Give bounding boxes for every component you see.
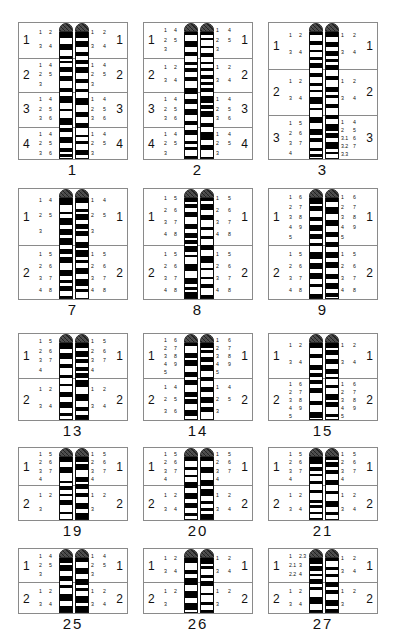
ideogram-bar-right [325,549,339,615]
region-number: 1 [366,461,373,473]
region-divider [19,582,127,583]
band-number: 2 [228,493,231,498]
band-number: 1 [91,252,94,257]
band-column-left [184,457,198,520]
band [60,467,72,474]
band-number: 8 [228,288,231,293]
centromere-cap-right [200,23,214,32]
region-number: 3 [116,103,123,115]
band-number: 7 [174,276,177,281]
band [76,98,88,105]
band-number: 3 [164,409,167,414]
region-number: 2 [366,267,373,279]
band [60,505,72,512]
region-divider [19,58,127,59]
band-number: 3 [289,398,292,403]
panel-border-9: 11234567892123456781123456789212345678 [268,188,378,300]
ideogram-bar-right [325,334,339,422]
band [60,218,72,225]
band-number: 6 [49,349,52,354]
band [201,610,213,612]
region-divider [19,485,127,486]
band-number: 2 [216,107,219,112]
band [60,238,72,245]
band [76,380,88,387]
chromosome-panel-26: 112342123112342123 [143,548,253,614]
band-number: 1 [164,97,167,102]
band-number: 4 [91,288,94,293]
band [76,155,88,158]
region-number: 1 [273,560,280,572]
band [201,117,213,123]
band-number: 6 [353,382,356,387]
region-number: 4 [241,138,248,150]
band-number: 2 [39,141,42,146]
band-number: 3 [91,229,94,234]
band-number: 3 [216,47,219,52]
band-number: 4 [341,406,344,411]
centromere-cap-right [200,334,214,343]
band-number: 1 [289,79,292,84]
band [76,596,88,603]
band [201,220,213,227]
band-number: 5 [228,452,231,457]
region-number: 2 [273,86,280,98]
band-number: 2 [174,589,177,594]
band [326,154,338,158]
chromosome-caption: 27 [268,616,378,631]
band [76,387,88,394]
centromere-cap-left [309,189,323,198]
region-number: 1 [273,461,280,473]
band [326,108,338,115]
band-number: 1 [289,252,292,257]
region-number: 1 [23,560,30,572]
band-number: 2 [216,141,219,146]
chromosome-caption: 15 [268,423,378,438]
band [185,271,197,278]
panel-border-19: 112345672123112345672123 [18,447,128,521]
band-number: 3 [216,220,219,225]
band-number: 1 [289,589,292,594]
band-number: 4 [39,368,42,373]
centromere-cap-left [309,23,323,32]
band-number: 2 [289,390,292,395]
band-number: 2 [341,264,344,269]
band-number: 2 [91,141,94,146]
panel-border-1: 1123421234531234564123456112342123453123… [18,22,128,160]
band [201,473,213,480]
band [76,470,88,477]
band-number: 1 [91,339,94,344]
band-column-left [59,558,73,613]
band-number: 5 [49,563,52,568]
band-number: 8 [228,354,231,359]
band-number: 4 [49,132,52,137]
band-number: 2 [341,390,344,395]
chromosome-panel-7: 112345212345678112345212345678 [18,188,128,300]
centromere-cap-left [184,448,198,457]
band-column-left [184,343,198,420]
band-number: 1 [341,79,344,84]
band-number: 8 [353,215,356,220]
band-number: 2 [39,72,42,77]
band-number: 4 [174,507,177,512]
band-number: 4 [103,602,106,607]
band-number: 2 [228,65,231,70]
band-number: 6 [174,460,177,465]
band-number: 2 [289,205,292,210]
band-number: 7 [103,276,106,281]
band-number: 1 [341,493,344,498]
region-divider [144,127,252,128]
band-number: 1 [91,589,94,594]
region-number: 2 [116,69,123,81]
band-number: 2 [174,493,177,498]
band-number: 4 [353,120,356,125]
ideogram-bar-right [200,23,214,161]
band [310,358,322,365]
centromere-cap-right [200,189,214,198]
region-divider [144,378,252,379]
region-number: 1 [241,461,248,473]
band-number: 3 [164,602,167,607]
band-number: 1 [216,252,219,257]
chromosome-panel-20: 11234567212341123456721234 [143,447,253,521]
band-number: 7 [353,390,356,395]
